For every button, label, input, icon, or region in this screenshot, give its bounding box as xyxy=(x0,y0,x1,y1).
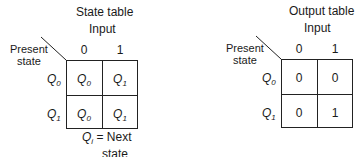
output-table-col-header: 0 xyxy=(281,42,317,56)
state-table-input-label: Input xyxy=(89,22,116,36)
state-table-row-header: Q0 xyxy=(47,72,61,88)
output-table-present-label: Present state xyxy=(226,42,264,66)
output-table-row-header: Q1 xyxy=(262,106,276,122)
output-table-cell: 1 xyxy=(317,106,353,120)
state-table-cell: Q1 xyxy=(102,107,138,123)
state-table-row-header: Q1 xyxy=(47,107,61,123)
state-table-cell: Q1 xyxy=(102,72,138,88)
state-table-col-header: 0 xyxy=(66,43,102,57)
state-table-col-header: 1 xyxy=(102,43,138,57)
output-table-cell: 0 xyxy=(317,71,353,85)
output-table-row-header: Q0 xyxy=(262,71,276,87)
state-table-footnote: Qi = Next state xyxy=(82,131,131,157)
state-table-present-label: Present state xyxy=(10,43,48,67)
output-table-input-label: Input xyxy=(304,21,331,35)
state-table-cell: Q0 xyxy=(66,72,102,88)
output-table-cell: 0 xyxy=(281,106,317,120)
output-table-col-header: 1 xyxy=(317,42,353,56)
state-table-title: State table xyxy=(76,5,133,19)
output-table-cell: 0 xyxy=(281,71,317,85)
output-table-title: Output table xyxy=(289,4,354,18)
state-table-cell: Q0 xyxy=(66,107,102,123)
